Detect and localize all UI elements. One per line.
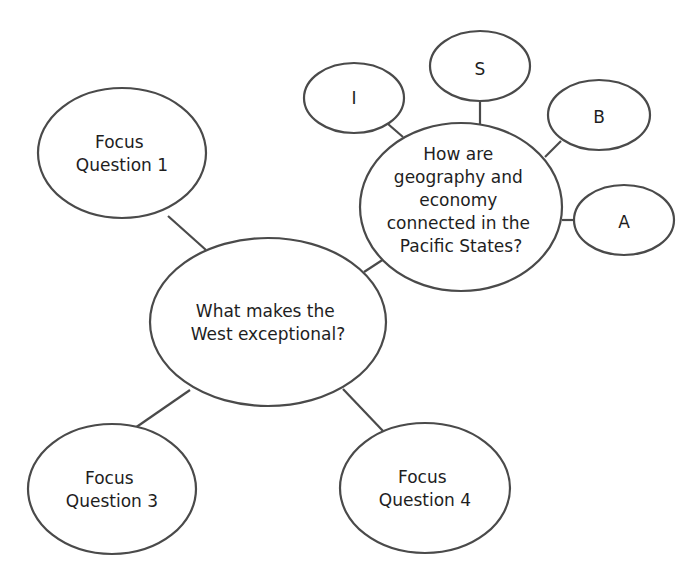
central-question-node: What makes the West exceptional? <box>150 238 386 406</box>
satellite-a-label: A <box>618 212 630 232</box>
pacific-question-line-3: economy <box>419 190 497 210</box>
connector-center-fq4 <box>343 389 383 431</box>
satellite-i-label: I <box>351 88 356 108</box>
pacific-question-node: How are geography and economy connected … <box>360 123 562 291</box>
connector-pacific-i <box>388 124 403 137</box>
focus-question-1-node: Focus Question 1 <box>38 88 206 218</box>
connector-pacific-b <box>545 141 561 157</box>
central-question-line-1: What makes the <box>196 301 335 321</box>
satellite-a-node: A <box>574 185 674 255</box>
central-question-line-2: West exceptional? <box>191 324 345 344</box>
satellite-s-node: S <box>430 31 530 101</box>
pacific-question-line-2: geography and <box>394 167 523 187</box>
central-question-ellipse <box>150 238 386 406</box>
pacific-question-line-5: Pacific States? <box>400 236 522 256</box>
focus-question-3-line-2: Question 3 <box>66 491 158 511</box>
focus-question-3-line-1: Focus <box>85 468 134 488</box>
pacific-question-line-4: connected in the <box>387 213 530 233</box>
satellite-b-node: B <box>548 80 650 150</box>
satellite-b-label: B <box>593 107 605 127</box>
focus-question-4-ellipse <box>340 423 510 553</box>
focus-question-3-node: Focus Question 3 <box>28 424 196 554</box>
pacific-question-line-1: How are <box>423 144 493 164</box>
connector-center-fq3 <box>135 390 190 428</box>
focus-question-1-line-2: Question 1 <box>76 155 168 175</box>
satellite-i-node: I <box>304 63 404 133</box>
focus-question-1-line-1: Focus <box>95 132 144 152</box>
focus-question-4-line-1: Focus <box>398 467 447 487</box>
connector-center-fq1 <box>168 216 206 250</box>
web-diagram: Focus Question 1 What makes the West exc… <box>0 0 693 577</box>
focus-question-4-node: Focus Question 4 <box>340 423 510 553</box>
satellite-s-label: S <box>475 59 486 79</box>
focus-question-3-ellipse <box>28 424 196 554</box>
focus-question-1-ellipse <box>38 88 206 218</box>
focus-question-4-line-2: Question 4 <box>379 490 471 510</box>
